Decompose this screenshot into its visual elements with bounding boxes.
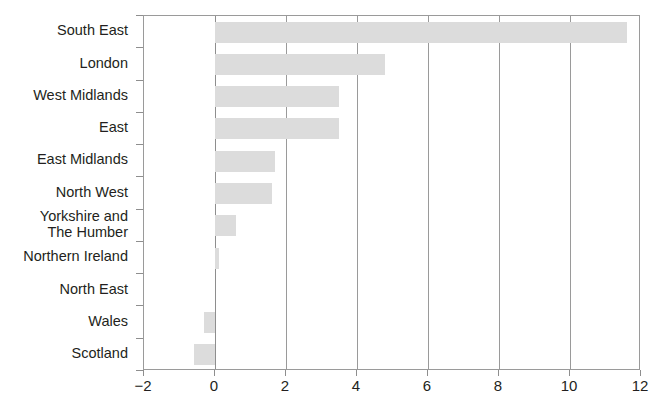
category-axis-labels: South EastLondonWest MidlandsEastEast Mi… xyxy=(0,15,136,370)
category-label: North East xyxy=(0,282,136,298)
x-axis-tick-label: 4 xyxy=(336,377,376,394)
y-axis-tick xyxy=(136,370,143,371)
category-label: Wales xyxy=(0,314,136,330)
x-axis-tick xyxy=(143,370,144,376)
x-axis-tick xyxy=(498,370,499,376)
x-axis-tick-label: 8 xyxy=(478,377,518,394)
x-axis-tick xyxy=(640,370,641,376)
bar xyxy=(215,183,272,204)
bar xyxy=(194,344,215,365)
x-axis-tick-label: 2 xyxy=(265,377,305,394)
y-axis-tick xyxy=(136,176,143,177)
x-axis-tick-label: 0 xyxy=(194,377,234,394)
y-axis-tick xyxy=(136,305,143,306)
y-axis-tick xyxy=(136,209,143,210)
bar xyxy=(215,86,339,107)
bar xyxy=(215,248,219,269)
category-label: Scotland xyxy=(0,346,136,362)
y-axis-tick xyxy=(136,80,143,81)
y-axis-tick xyxy=(136,112,143,113)
bar xyxy=(215,151,275,172)
y-axis-tick xyxy=(136,241,143,242)
y-axis-tick xyxy=(136,144,143,145)
category-label: Northern Ireland xyxy=(0,249,136,265)
x-axis-tick xyxy=(356,370,357,376)
bar xyxy=(215,118,339,139)
bar xyxy=(204,312,215,333)
y-axis-tick xyxy=(136,273,143,274)
category-label: Yorkshire and The Humber xyxy=(0,209,136,240)
category-label: West Midlands xyxy=(0,88,136,104)
x-axis-tick-label: −2 xyxy=(123,377,163,394)
bar-series xyxy=(144,16,639,369)
bar xyxy=(215,215,236,236)
x-axis-tick xyxy=(427,370,428,376)
x-axis-tick-label: 12 xyxy=(620,377,658,394)
category-label: East xyxy=(0,120,136,136)
bar-chart: South EastLondonWest MidlandsEastEast Mi… xyxy=(0,0,658,409)
x-axis-tick-label: 10 xyxy=(549,377,589,394)
x-axis-tick xyxy=(214,370,215,376)
category-label: London xyxy=(0,56,136,72)
bar xyxy=(215,54,385,75)
x-axis-tick xyxy=(285,370,286,376)
category-label: East Midlands xyxy=(0,152,136,168)
y-axis-tick xyxy=(136,47,143,48)
category-label: South East xyxy=(0,23,136,39)
x-axis-tick-label: 6 xyxy=(407,377,447,394)
y-axis-tick xyxy=(136,338,143,339)
category-label: North West xyxy=(0,185,136,201)
bar xyxy=(215,22,627,43)
y-axis-tick xyxy=(136,15,143,16)
x-axis-tick xyxy=(569,370,570,376)
plot-area xyxy=(143,15,640,370)
